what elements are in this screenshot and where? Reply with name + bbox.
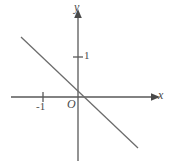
y-axis-label: y: [74, 1, 79, 13]
x-axis-label: x: [158, 89, 163, 101]
coordinate-plane-svg: [0, 0, 172, 165]
plotted-line: [21, 37, 138, 148]
x-tick-label-minus-one: -1: [36, 101, 45, 112]
y-tick-label-one: 1: [84, 50, 90, 61]
origin-label: O: [67, 98, 76, 110]
coordinate-plane-figure: y x O -1 1: [0, 0, 172, 165]
